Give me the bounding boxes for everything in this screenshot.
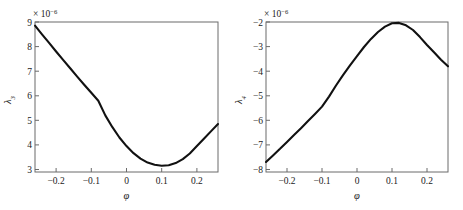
y-tick-label: −7 — [253, 140, 263, 150]
y-tick-label: 8 — [27, 42, 32, 52]
x-axis-tick-labels: −0.2 −0.1 0 0.1 0.2 — [278, 176, 433, 186]
y-tick-label: −4 — [253, 67, 263, 77]
y-axis-title: λ3 — [2, 95, 16, 105]
y-axis-exponent-label: × 10−6 — [264, 8, 289, 20]
chart-panel-lambda4: × 10−6 −2 −3 −4 −5 −6 −7 −8 — [231, 0, 463, 210]
x-tick-label: −0.2 — [47, 176, 64, 186]
x-tick-label: 0 — [124, 176, 129, 186]
y-tick-label: −8 — [253, 165, 263, 175]
y-tick-label: 4 — [27, 140, 32, 150]
x-axis-title: φ — [124, 190, 130, 201]
y-axis-ticks — [35, 22, 39, 170]
y-tick-label: 7 — [27, 67, 32, 77]
x-axis-title: φ — [354, 190, 360, 201]
y-tick-label: 9 — [27, 18, 32, 28]
x-axis-ticks — [56, 168, 197, 172]
x-tick-label: −0.2 — [278, 176, 295, 186]
y-tick-label: 5 — [27, 116, 32, 126]
y-axis-title: λ4 — [233, 95, 247, 105]
plot-box-border — [35, 22, 218, 172]
x-tick-label: 0.1 — [386, 176, 398, 186]
x-tick-label: −0.1 — [313, 176, 330, 186]
x-tick-label: 0.1 — [156, 176, 168, 186]
chart-panel-lambda3: × 10−6 9 8 7 6 5 4 3 — [0, 0, 232, 210]
x-tick-label: −0.1 — [83, 176, 100, 186]
chart-svg-lambda3: × 10−6 9 8 7 6 5 4 3 — [0, 0, 232, 210]
x-tick-label: 0.2 — [191, 176, 203, 186]
y-tick-label: 3 — [27, 165, 32, 175]
y-axis-ticks — [266, 22, 270, 170]
y-tick-label: −2 — [253, 18, 263, 28]
y-axis-tick-labels: −2 −3 −4 −5 −6 −7 −8 — [253, 18, 263, 176]
x-tick-label: 0 — [355, 176, 360, 186]
y-tick-label: −5 — [253, 91, 263, 101]
data-curve-lambda3 — [35, 26, 218, 166]
y-tick-label: −6 — [253, 116, 263, 126]
x-axis-tick-labels: −0.2 −0.1 0 0.1 0.2 — [47, 176, 203, 186]
data-curve-lambda4 — [266, 23, 448, 162]
x-tick-label: 0.2 — [421, 176, 433, 186]
y-axis-exponent-label: × 10−6 — [33, 8, 58, 20]
y-tick-label: −3 — [253, 42, 263, 52]
y-axis-tick-labels: 9 8 7 6 5 4 3 — [27, 18, 32, 176]
chart-svg-lambda4: × 10−6 −2 −3 −4 −5 −6 −7 −8 — [231, 0, 463, 210]
x-axis-ticks — [287, 168, 427, 172]
figure-two-panel-plot: × 10−6 9 8 7 6 5 4 3 — [0, 0, 463, 210]
plot-box-border — [266, 22, 448, 172]
y-tick-label: 6 — [27, 91, 32, 101]
